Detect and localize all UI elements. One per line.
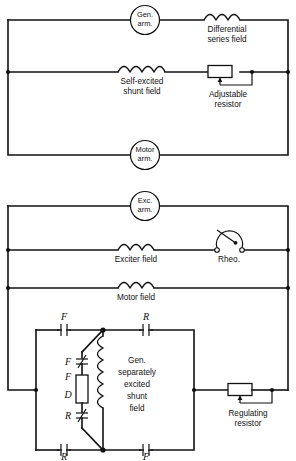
gen-shunt-field-label-line2: separately [118, 368, 157, 377]
differential-series-field-coil [204, 15, 240, 21]
contact-r-mid-label: R [64, 410, 71, 421]
contact-f-bottom: F [140, 444, 152, 461]
adjustable-resistor-label-line1: Adjustable [209, 90, 248, 99]
adjustable-resistor-box [208, 66, 232, 78]
contact-r-mid: R [64, 409, 88, 422]
top-wire-left-lower [8, 72, 131, 155]
contact-f-top-label: F [60, 311, 68, 322]
contact-r-top-label: R [142, 311, 149, 322]
motor-arm-label-line2: arm. [138, 154, 153, 163]
contact-f-bottom-label: F [142, 451, 150, 461]
contact-f-mid: F [64, 355, 88, 368]
junction-dot-adjustable-resistor [250, 70, 254, 74]
regulating-resistor-label-line2: resistor [235, 419, 262, 428]
motor-arm-label-line1: Motor [136, 145, 155, 154]
gen-shunt-field-label-line1: Gen. [128, 356, 146, 365]
bot-wire-exc-right [159, 206, 288, 250]
top-wire-series-to-right [240, 20, 288, 72]
motor-field-coil [118, 283, 154, 289]
self-excited-shunt-field-label-line2: shunt field [123, 87, 161, 96]
junction-dot-top-left [6, 70, 10, 74]
motor-field-label: Motor field [117, 293, 156, 302]
bridge-diagonal-top [82, 330, 103, 352]
gen-arm-label-line2: arm. [138, 19, 153, 28]
rheostat-wiper-pivot [234, 241, 238, 245]
regulating-resistor-box [228, 384, 252, 396]
self-excited-shunt-field-label-line1: Self-excited [121, 77, 164, 86]
rheostat-terminal-left [215, 248, 220, 253]
contact-f-top: F [58, 311, 70, 336]
contact-f-mid-label: F [64, 356, 72, 367]
exc-arm-label-line1: Exc. [138, 196, 152, 205]
contact-r-bottom-label: R [60, 451, 67, 461]
differential-series-field-label-line1: Differential [208, 25, 247, 34]
rheostat-arc [217, 231, 243, 250]
contact-r-top: R [140, 311, 152, 336]
resistor-d-label: D [63, 389, 72, 400]
gen-arm-label-line1: Gen. [137, 10, 153, 19]
regulating-resistor-label-line1: Regulating [228, 409, 268, 418]
rheostat-label: Rheo. [218, 255, 240, 264]
differential-series-field-label-line2: series field [207, 35, 247, 44]
schematic-figure: Gen. arm. Differential series field Self… [0, 0, 296, 461]
self-excited-shunt-field-coil [118, 67, 165, 73]
exc-arm-label-line2: arm. [138, 205, 153, 214]
rheostat-terminal-right [240, 248, 245, 253]
junction-dot-top-right [286, 70, 290, 74]
bridge-diagonal-bottom [82, 428, 103, 450]
contact-r-bottom: R [58, 444, 70, 461]
exciter-field-label: Exciter field [115, 255, 158, 264]
junction-dot-bridge-left [34, 388, 38, 392]
gen-shunt-field-label-line4: shunt [127, 392, 148, 401]
bottom-circuit: Exc. arm. Exciter field Rheo. Motor fiel… [6, 192, 290, 461]
bot-wire-left-to-bridge [8, 288, 36, 390]
resistor-fd-box [76, 375, 88, 403]
adjustable-resistor-label-line2: resistor [215, 100, 242, 109]
schematic-svg: Gen. arm. Differential series field Self… [0, 0, 296, 461]
gen-shunt-field-label-line5: field [129, 404, 144, 413]
bridge-top-wire-d [152, 330, 194, 390]
gen-shunt-field-label-line3: excited [124, 380, 150, 389]
gen-shunt-field-coil [98, 336, 104, 408]
resistor-f-label: F [64, 371, 72, 382]
bridge-bot-wire-d [152, 390, 194, 450]
top-circuit: Gen. arm. Differential series field Self… [6, 6, 290, 170]
exciter-field-coil [118, 245, 154, 251]
